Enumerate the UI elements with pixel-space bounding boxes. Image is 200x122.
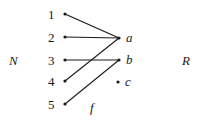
domain-dot-3 [63, 58, 66, 61]
codomain-label-c: c [125, 74, 131, 89]
domain-set-label: N [8, 53, 19, 68]
function-mapping-diagram: 1 2 3 4 5 a b c N R f [0, 0, 200, 122]
domain-dot-5 [63, 102, 66, 105]
codomain-set-label: R [181, 53, 190, 68]
edge-5-b [65, 60, 119, 104]
domain-label-4: 4 [48, 74, 55, 89]
edge-1-a [65, 14, 119, 38]
domain-label-3: 3 [48, 53, 55, 68]
domain-label-1: 1 [48, 7, 55, 22]
codomain-dot-a [117, 36, 120, 39]
domain-dot-1 [63, 12, 66, 15]
codomain-dot-c [116, 80, 119, 83]
codomain-label-a: a [126, 30, 133, 45]
domain-label-5: 5 [48, 97, 55, 112]
domain-dot-4 [63, 79, 66, 82]
domain-label-2: 2 [48, 30, 55, 45]
domain-dot-2 [63, 35, 66, 38]
codomain-dot-b [117, 58, 120, 61]
function-label: f [90, 100, 96, 115]
codomain-label-b: b [126, 52, 133, 67]
edge-2-a [65, 37, 119, 38]
